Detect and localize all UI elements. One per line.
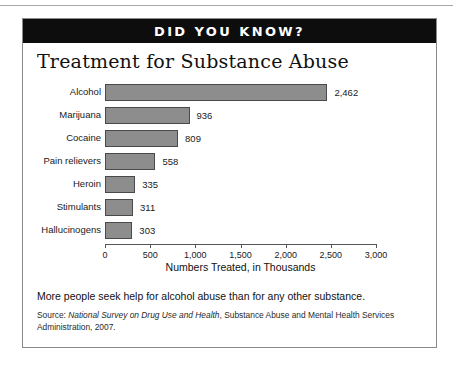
x-axis-tick <box>150 244 151 248</box>
x-axis-tick-label: 0 <box>102 250 107 260</box>
bar-value-label: 936 <box>197 110 213 121</box>
bar-track: 936 <box>105 106 438 129</box>
x-axis-tick <box>286 244 287 248</box>
bar <box>105 84 327 101</box>
bar-category-label: Stimulants <box>23 201 101 213</box>
x-axis-tick-label: 3,000 <box>365 250 388 260</box>
bar-value-label: 2,462 <box>334 87 358 98</box>
bar-category-label: Heroin <box>23 178 101 190</box>
bar-row: Pain relievers558 <box>23 152 438 175</box>
x-axis-tick-label: 1,500 <box>229 250 252 260</box>
bar-rows: Alcohol2,462Marijuana936Cocaine809Pain r… <box>23 83 438 244</box>
bar-category-label: Cocaine <box>23 132 101 144</box>
bar-track: 2,462 <box>105 83 438 106</box>
bar-category-label: Pain relievers <box>23 155 101 167</box>
bar-value-label: 303 <box>139 225 155 236</box>
bar-category-label: Marijuana <box>23 109 101 121</box>
bar-row: Hallucinogens303 <box>23 221 438 244</box>
x-axis-tick <box>376 244 377 248</box>
x-axis-tick <box>241 244 242 248</box>
bar-row: Stimulants311 <box>23 198 438 221</box>
bar-row: Heroin335 <box>23 175 438 198</box>
x-axis-title: Numbers Treated, in Thousands <box>105 261 376 273</box>
bar-category-label: Alcohol <box>23 86 101 98</box>
bar <box>105 153 155 170</box>
x-axis-tick-label: 500 <box>143 250 158 260</box>
bar-track: 809 <box>105 129 438 152</box>
x-axis-tick <box>195 244 196 248</box>
chart-title: Treatment for Substance Abuse <box>37 50 349 72</box>
bar <box>105 199 133 216</box>
bar-value-label: 809 <box>185 133 201 144</box>
bar <box>105 107 190 124</box>
bar-row: Cocaine809 <box>23 129 438 152</box>
x-axis-tick <box>331 244 332 248</box>
x-axis-tick-label: 2,500 <box>320 250 343 260</box>
x-axis-tick-label: 1,000 <box>184 250 207 260</box>
bar-value-label: 558 <box>162 156 178 167</box>
page-top-rule <box>0 5 453 6</box>
bar-category-label: Hallucinogens <box>23 224 101 236</box>
bar-track: 558 <box>105 152 438 175</box>
x-axis-tick <box>105 244 106 248</box>
bar-value-label: 311 <box>140 202 155 213</box>
bar-track: 311 <box>105 198 438 221</box>
bar-track: 303 <box>105 221 438 244</box>
banner-title: DID YOU KNOW? <box>154 24 305 39</box>
banner: DID YOU KNOW? <box>23 19 436 43</box>
bar-chart-plot: Alcohol2,462Marijuana936Cocaine809Pain r… <box>23 83 438 278</box>
x-axis-tick-label: 2,000 <box>274 250 297 260</box>
did-you-know-figure: DID YOU KNOW? Treatment for Substance Ab… <box>22 18 437 348</box>
bar-value-label: 335 <box>142 179 158 190</box>
chart-caption: More people seek help for alcohol abuse … <box>37 289 427 303</box>
bar-row: Alcohol2,462 <box>23 83 438 106</box>
bar <box>105 176 135 193</box>
bar <box>105 130 178 147</box>
bar-track: 335 <box>105 175 438 198</box>
bar <box>105 222 132 239</box>
source-title: National Survey on Drug Use and Health <box>68 310 219 320</box>
chart-source: Source: National Survey on Drug Use and … <box>37 310 425 333</box>
source-prefix: Source: <box>37 310 68 320</box>
bar-row: Marijuana936 <box>23 106 438 129</box>
